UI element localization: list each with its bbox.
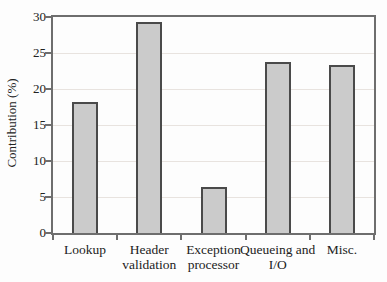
y-tick-mark-0	[45, 232, 51, 234]
y-tick-label-5: 5	[14, 190, 46, 204]
x-tick-mark-5	[373, 235, 375, 240]
y-tick-label-15: 15	[14, 118, 46, 132]
x-tick-mark-0	[52, 235, 54, 240]
bar-queueing-and-i-o	[265, 62, 291, 233]
y-tick-mark-5	[45, 196, 51, 198]
gridline-25	[53, 53, 374, 54]
x-tick-mark-4	[309, 235, 311, 240]
y-tick-label-25: 25	[14, 46, 46, 60]
gridline-20	[53, 89, 374, 90]
y-tick-label-0: 0	[14, 226, 46, 240]
x-tick-mark-1	[116, 235, 118, 240]
y-tick-label-10: 10	[14, 154, 46, 168]
bar-misc	[329, 65, 355, 233]
y-tick-label-20: 20	[14, 82, 46, 96]
x-category-label-misc: Misc.	[304, 242, 380, 257]
bar-exception-processor	[201, 187, 227, 233]
x-tick-mark-2	[180, 235, 182, 240]
y-tick-mark-20	[45, 88, 51, 90]
plot-area	[51, 15, 376, 235]
y-tick-mark-25	[45, 52, 51, 54]
gridline-10	[53, 161, 374, 162]
bar-chart-figure: Contribution (%) 051015202530LookupHeade…	[0, 0, 387, 282]
bar-lookup	[72, 102, 98, 233]
y-tick-mark-15	[45, 124, 51, 126]
gridline-15	[53, 125, 374, 126]
x-tick-mark-3	[245, 235, 247, 240]
y-tick-label-30: 30	[14, 10, 46, 24]
y-tick-mark-30	[45, 16, 51, 18]
bar-header-validation	[136, 22, 162, 233]
y-tick-mark-10	[45, 160, 51, 162]
